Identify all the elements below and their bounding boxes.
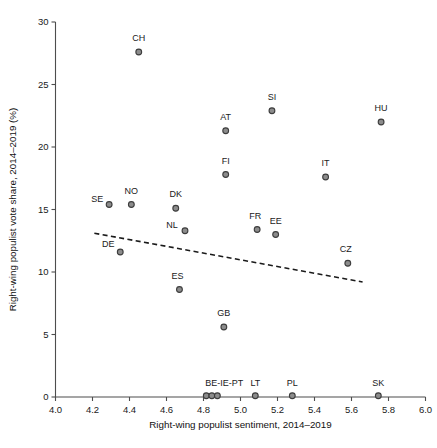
y-tick-label-10: 10 — [38, 266, 49, 277]
data-point-label-fr: FR — [249, 211, 261, 221]
data-point-dk[interactable] — [173, 205, 179, 211]
data-point-label-no: NO — [125, 186, 139, 196]
data-point-label-cz: CZ — [340, 244, 352, 254]
data-point-label-pl: PL — [287, 378, 298, 388]
x-tick-label-4.4: 4.4 — [123, 404, 136, 415]
data-point-label-it: IT — [322, 158, 331, 168]
data-point-es[interactable] — [177, 287, 183, 293]
x-tick-label-4.2: 4.2 — [86, 404, 99, 415]
data-point-sk[interactable] — [375, 393, 381, 399]
data-point-it[interactable] — [323, 174, 329, 180]
data-point-label-lt: LT — [250, 378, 260, 388]
chart-canvas: 0510152025304.04.24.44.64.85.05.25.45.65… — [0, 0, 437, 448]
data-point-label-be-ie-pt: BE-IE-PT — [205, 378, 244, 388]
data-point-se[interactable] — [106, 202, 112, 208]
data-point-fi[interactable] — [223, 172, 229, 178]
x-tick-label-5.4: 5.4 — [308, 404, 321, 415]
y-tick-label-15: 15 — [38, 204, 49, 215]
data-point-be-ie-pt[interactable] — [203, 393, 209, 399]
data-point-label-gb: GB — [217, 308, 230, 318]
data-point-nl[interactable] — [182, 228, 188, 234]
data-point-label-hu: HU — [375, 103, 388, 113]
data-point-label-ee: EE — [270, 216, 282, 226]
data-point-label-dk: DK — [169, 189, 182, 199]
x-tick-label-4.6: 4.6 — [160, 404, 173, 415]
x-tick-label-6.0: 6.0 — [419, 404, 432, 415]
data-point-17[interactable] — [209, 393, 215, 399]
data-point-label-se: SE — [91, 194, 103, 204]
x-tick-label-4.8: 4.8 — [197, 404, 210, 415]
trend-line — [94, 233, 362, 282]
data-point-label-ch: CH — [132, 33, 145, 43]
x-axis-title: Right-wing populist sentiment, 2014–2019 — [149, 419, 331, 430]
data-point-de[interactable] — [117, 249, 123, 255]
data-point-18[interactable] — [214, 393, 220, 399]
y-axis-title: Right-wing populist vote share, 2014–201… — [7, 108, 18, 312]
data-point-label-de: DE — [102, 239, 115, 249]
data-point-label-si: SI — [268, 92, 277, 102]
data-point-hu[interactable] — [378, 119, 384, 125]
y-tick-label-5: 5 — [43, 329, 48, 340]
data-point-pl[interactable] — [289, 393, 295, 399]
data-point-ch[interactable] — [136, 49, 142, 55]
data-point-lt[interactable] — [252, 393, 258, 399]
x-tick-label-5.0: 5.0 — [234, 404, 247, 415]
x-tick-label-5.8: 5.8 — [382, 404, 395, 415]
data-point-label-fi: FI — [222, 156, 230, 166]
data-point-gb[interactable] — [221, 324, 227, 330]
data-point-label-at: AT — [220, 112, 231, 122]
data-point-label-nl: NL — [166, 220, 178, 230]
data-point-fr[interactable] — [254, 227, 260, 233]
data-point-cz[interactable] — [345, 260, 351, 266]
y-tick-label-0: 0 — [43, 391, 48, 402]
x-tick-label-5.6: 5.6 — [345, 404, 358, 415]
data-point-ee[interactable] — [273, 232, 279, 238]
y-tick-label-25: 25 — [38, 79, 49, 90]
data-point-label-sk: SK — [372, 378, 384, 388]
x-tick-label-5.2: 5.2 — [271, 404, 284, 415]
data-point-no[interactable] — [128, 202, 134, 208]
y-tick-label-30: 30 — [38, 16, 49, 27]
data-point-label-es: ES — [171, 271, 183, 281]
x-tick-label-4.0: 4.0 — [49, 404, 62, 415]
scatter-chart-figure: 0510152025304.04.24.44.64.85.05.25.45.65… — [0, 0, 437, 448]
data-point-at[interactable] — [223, 128, 229, 134]
y-tick-label-20: 20 — [38, 141, 49, 152]
data-point-si[interactable] — [269, 108, 275, 114]
